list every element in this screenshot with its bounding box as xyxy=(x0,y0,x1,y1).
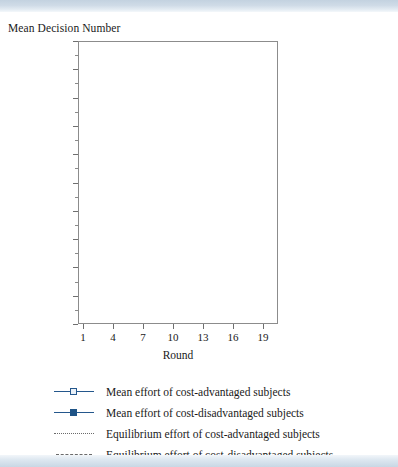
filled-square-icon xyxy=(70,409,77,416)
y-minor-tick-mark xyxy=(75,225,78,226)
x-tick-mark xyxy=(113,324,114,329)
x-tick-label: 7 xyxy=(140,331,146,343)
x-tick-mark xyxy=(203,324,204,329)
legend-key-line-open-square xyxy=(52,385,96,399)
legend-key-dotted-line xyxy=(52,427,96,441)
y-tick-mark xyxy=(73,211,78,212)
page-top-band xyxy=(0,0,398,12)
y-minor-tick-mark xyxy=(75,55,78,56)
y-tick-mark xyxy=(73,98,78,99)
y-minor-tick-mark xyxy=(75,282,78,283)
y-minor-tick-mark xyxy=(75,253,78,254)
x-tick-mark xyxy=(173,324,174,329)
page-bottom-band xyxy=(0,455,398,467)
y-tick-mark xyxy=(73,183,78,184)
legend-item: Mean effort of cost-advantaged subjects xyxy=(52,381,392,402)
x-tick-label: 4 xyxy=(110,331,116,343)
legend-item: Mean effort of cost-disadvantaged subjec… xyxy=(52,402,392,423)
plot-frame xyxy=(78,41,278,324)
x-tick-mark xyxy=(143,324,144,329)
y-tick-mark xyxy=(73,126,78,127)
x-tick-label: 10 xyxy=(168,331,179,343)
plot-area: 010203040506070809010014710131619 xyxy=(78,41,278,324)
dotted-line-icon xyxy=(54,433,94,434)
x-tick-label: 16 xyxy=(228,331,239,343)
x-tick-mark xyxy=(83,324,84,329)
y-minor-tick-mark xyxy=(75,168,78,169)
x-tick-label: 13 xyxy=(198,331,209,343)
chart-legend: Mean effort of cost-advantaged subjectsM… xyxy=(52,381,392,465)
x-tick-label: 19 xyxy=(258,331,269,343)
y-tick-mark xyxy=(73,69,78,70)
y-minor-tick-mark xyxy=(75,112,78,113)
y-tick-mark xyxy=(73,267,78,268)
legend-label: Mean effort of cost-disadvantaged subjec… xyxy=(96,407,304,419)
y-tick-mark xyxy=(73,239,78,240)
y-tick-mark xyxy=(73,324,78,325)
x-tick-mark xyxy=(263,324,264,329)
legend-label: Equilibrium effort of cost-advantaged su… xyxy=(96,428,320,440)
y-tick-mark xyxy=(73,154,78,155)
legend-label: Mean effort of cost-advantaged subjects xyxy=(96,386,290,398)
y-tick-mark xyxy=(73,41,78,42)
y-minor-tick-mark xyxy=(75,197,78,198)
x-tick-label: 1 xyxy=(80,331,86,343)
y-minor-tick-mark xyxy=(75,83,78,84)
y-minor-tick-mark xyxy=(75,140,78,141)
x-tick-mark xyxy=(233,324,234,329)
x-axis-title: Round xyxy=(78,349,278,361)
open-square-icon xyxy=(70,388,77,395)
y-tick-mark xyxy=(73,296,78,297)
legend-key-line-filled-square xyxy=(52,406,96,420)
chart-figure: Mean Decision Number 0102030405060708090… xyxy=(0,12,398,455)
legend-item: Equilibrium effort of cost-advantaged su… xyxy=(52,423,392,444)
y-axis-label: Mean Decision Number xyxy=(8,22,121,34)
y-minor-tick-mark xyxy=(75,310,78,311)
